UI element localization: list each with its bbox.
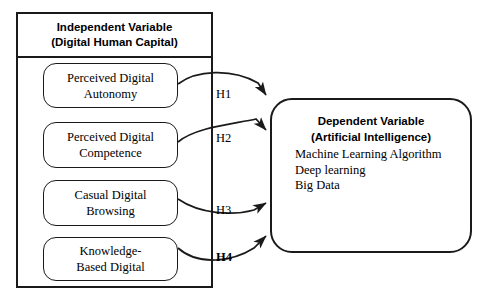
dv-title-line-2: (Artificial Intelligence) — [272, 130, 470, 146]
dv-item-2: Deep learning — [295, 163, 470, 179]
iv-construct-1-line-1: Perceived Digital — [67, 70, 154, 86]
iv-construct-3-line-1: Casual Digital — [75, 187, 147, 203]
dependent-variable-box[interactable]: Dependent Variable (Artificial Intellige… — [270, 98, 472, 253]
cropped-bottom-caption — [0, 293, 483, 302]
diagram-canvas: Independent Variable (Digital Human Capi… — [0, 0, 483, 302]
hypothesis-label-h4: H4 — [216, 250, 232, 265]
iv-construct-box-1[interactable]: Perceived Digital Autonomy — [43, 63, 178, 108]
dependent-variable-title: Dependent Variable (Artificial Intellige… — [272, 114, 470, 145]
iv-construct-4-line-2: Based Digital — [76, 259, 144, 275]
dv-title-line-1: Dependent Variable — [272, 114, 470, 130]
hypothesis-label-h3: H3 — [216, 203, 231, 218]
dependent-variable-item-list: Machine Learning Algorithm Deep learning… — [272, 147, 470, 194]
dv-item-3: Big Data — [295, 178, 470, 194]
iv-header-line-1: Independent Variable — [57, 20, 173, 35]
iv-construct-3-line-2: Browsing — [86, 203, 135, 219]
iv-construct-box-2[interactable]: Perceived Digital Competence — [43, 122, 178, 168]
hypothesis-label-h2: H2 — [216, 131, 231, 146]
iv-construct-4-line-1: Knowledge- — [80, 243, 142, 259]
dv-item-1: Machine Learning Algorithm — [295, 147, 470, 163]
iv-construct-1-line-2: Autonomy — [84, 86, 137, 102]
iv-construct-box-3[interactable]: Casual Digital Browsing — [43, 180, 178, 226]
hypothesis-label-h1: H1 — [216, 87, 231, 102]
iv-header-line-2: (Digital Human Capital) — [51, 35, 178, 50]
iv-construct-2-line-1: Perceived Digital — [67, 129, 154, 145]
iv-construct-box-4[interactable]: Knowledge- Based Digital — [43, 237, 178, 281]
independent-variable-header: Independent Variable (Digital Human Capi… — [16, 12, 213, 58]
iv-construct-2-line-2: Competence — [79, 145, 141, 161]
